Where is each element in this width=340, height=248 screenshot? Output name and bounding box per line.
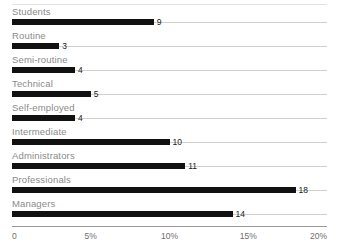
bar-value-label: 4 <box>78 65 83 75</box>
category-label: Semi-routine <box>12 54 68 65</box>
bar-row: Self-employed4 <box>0 102 340 126</box>
bar <box>12 91 91 97</box>
category-label: Students <box>12 6 51 17</box>
category-label: Routine <box>12 30 46 41</box>
bar-value-label: 5 <box>94 89 99 99</box>
bar-row: Semi-routine4 <box>0 54 340 78</box>
bar-value-label: 9 <box>157 17 162 27</box>
bar-row: Technical5 <box>0 78 340 102</box>
x-axis-line <box>12 226 327 227</box>
category-label: Managers <box>12 198 55 209</box>
x-tick-label: 15% <box>240 231 257 241</box>
bar-value-label: 18 <box>299 185 308 195</box>
category-label: Administrators <box>12 150 75 161</box>
bar <box>12 67 75 73</box>
bar-value-label: 10 <box>173 137 182 147</box>
bar <box>12 187 296 193</box>
category-label: Intermediate <box>12 126 67 137</box>
x-tick-label: 0 <box>12 231 17 241</box>
bar <box>12 115 75 121</box>
bar <box>12 19 154 25</box>
category-label: Professionals <box>12 174 71 185</box>
bar-value-label: 14 <box>236 209 245 219</box>
x-tick-label: 20% <box>310 231 327 241</box>
x-tick-label: 10% <box>161 231 178 241</box>
bar-chart: Students9Routine3Semi-routine4Technical5… <box>0 0 340 248</box>
bar <box>12 211 233 217</box>
bar-value-label: 11 <box>188 161 197 171</box>
bar-row: Students9 <box>0 6 340 30</box>
plot-area: Students9Routine3Semi-routine4Technical5… <box>0 0 340 218</box>
bar-value-label: 3 <box>62 41 67 51</box>
bar-value-label: 4 <box>78 113 83 123</box>
bar <box>12 43 59 49</box>
category-label: Technical <box>12 78 53 89</box>
x-tick-label: 5% <box>85 231 97 241</box>
row-gridline <box>12 46 327 47</box>
bar <box>12 139 170 145</box>
bar-row: Administrators11 <box>0 150 340 174</box>
bar <box>12 163 185 169</box>
bar-row: Managers14 <box>0 198 340 222</box>
bar-row: Routine3 <box>0 30 340 54</box>
category-label: Self-employed <box>12 102 75 113</box>
bar-row: Intermediate10 <box>0 126 340 150</box>
bar-row: Professionals18 <box>0 174 340 198</box>
